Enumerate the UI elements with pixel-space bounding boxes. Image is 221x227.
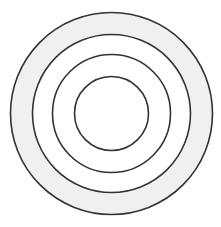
concentric-circles-svg <box>0 0 221 227</box>
inner-circle <box>75 77 149 151</box>
concentric-circles-diagram <box>0 0 221 227</box>
